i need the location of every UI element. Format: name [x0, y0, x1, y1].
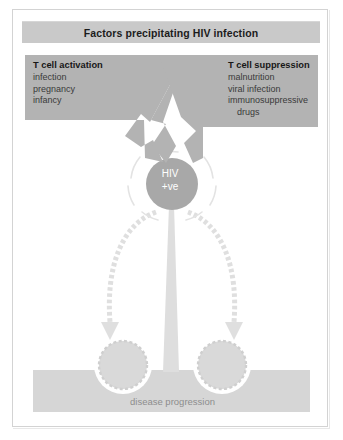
disease-progression-label: disease progression [45, 396, 300, 407]
right-factor-heading: T cell suppression [228, 60, 310, 71]
right-factor-item-3: immunosuppressive [228, 95, 310, 106]
left-outcome-node [99, 341, 147, 389]
left-factor-item-1: infection [33, 72, 103, 83]
right-factor-box: T cell suppression malnutrition viral in… [228, 60, 310, 118]
central-progression-wedge [163, 205, 179, 372]
hiv-positive-node [146, 158, 198, 210]
figure-title-bar: Factors precipitating HIV infection [22, 21, 320, 43]
left-curved-arrow-shaft [109, 212, 156, 322]
figure-container: Factors precipitating HIV infection T ce… [0, 0, 343, 440]
right-curved-arrow-shaft [188, 212, 235, 322]
right-factor-item-1: malnutrition [228, 72, 310, 83]
right-factor-item-2: viral infection [228, 84, 310, 95]
right-factor-item-4: drugs [228, 107, 310, 118]
figure-title: Factors precipitating HIV infection [84, 27, 258, 39]
right-outcome-node [198, 341, 246, 389]
left-factor-item-3: infancy [33, 95, 103, 106]
left-factor-box: T cell activation infection pregnancy in… [33, 60, 103, 107]
left-factor-heading: T cell activation [33, 60, 103, 71]
left-factor-item-2: pregnancy [33, 84, 103, 95]
